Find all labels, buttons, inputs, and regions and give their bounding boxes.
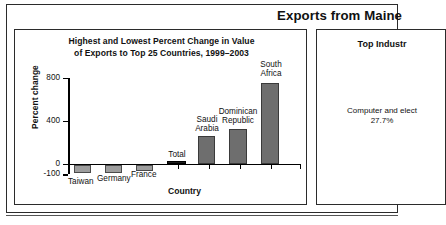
bar-label-germany: Germany — [97, 174, 131, 183]
bar-label-dominican-republic-line2: Republic — [214, 116, 262, 125]
x-tick-end — [300, 165, 301, 169]
bar-label-france: France — [131, 170, 156, 179]
x-tick-5 — [209, 165, 210, 169]
bar-chart-plot-area: 800 400 0 -100 Percent change Taiwan Ger… — [15, 30, 307, 205]
y-tick-400 — [63, 121, 68, 122]
bar-taiwan[interactable] — [74, 165, 91, 173]
bar-label-total: Total — [159, 150, 195, 159]
y-tick-0 — [63, 164, 68, 165]
top-industries-card: Top Industr Computer and elect 27.7% — [316, 29, 446, 205]
top-industry-percent: 27.7% — [317, 116, 446, 126]
bar-saudi-arabia[interactable] — [198, 136, 215, 164]
banner: Exports from Maine — [0, 8, 404, 26]
bar-label-south-africa-line1: South — [253, 60, 289, 69]
x-tick-7 — [271, 165, 272, 169]
bar-germany[interactable] — [105, 165, 122, 173]
bar-label-dominican-republic-line1: Dominican — [214, 107, 262, 116]
x-tick-6 — [240, 165, 241, 169]
bar-total[interactable] — [167, 161, 186, 165]
bar-dominican-republic[interactable] — [229, 129, 247, 164]
bar-label-south-africa-line2: Africa — [253, 69, 289, 78]
top-industry-entry: Computer and elect 27.7% — [317, 106, 446, 126]
y-tick-label-neg100: -100 — [20, 170, 60, 178]
y-axis-title: Percent change — [30, 57, 40, 137]
bar-south-africa[interactable] — [261, 83, 279, 164]
top-industry-name: Computer and elect — [347, 106, 417, 115]
x-axis-title: Country — [68, 186, 301, 196]
y-tick-neg100 — [63, 174, 68, 175]
top-industries-title: Top Industr — [317, 39, 446, 49]
page-bottom-rule — [6, 215, 398, 216]
chart-card: Highest and Lowest Percent Change in Val… — [14, 29, 307, 205]
y-axis-line — [68, 78, 70, 174]
y-tick-800 — [63, 78, 68, 79]
y-tick-label-0: 0 — [20, 160, 60, 168]
y-tick-label-400: 400 — [20, 117, 60, 125]
bar-label-taiwan: Taiwan — [68, 177, 94, 186]
y-tick-label-800: 800 — [20, 74, 60, 82]
x-tick-4 — [178, 165, 179, 169]
bar-label-saudi-arabia-line2: Arabia — [189, 124, 225, 133]
page-title: Exports from Maine — [277, 8, 402, 23]
